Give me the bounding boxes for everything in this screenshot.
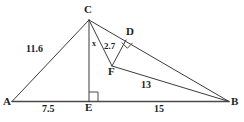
length-label-cf: x: [92, 40, 96, 48]
segment-fb: [112, 66, 229, 102]
length-label-df: 2.7: [104, 42, 115, 51]
segment-cb: [89, 20, 229, 102]
length-label-ac: 11.6: [26, 44, 43, 54]
length-label-eb: 15: [154, 104, 164, 114]
vertex-label-b: B: [231, 96, 238, 107]
vertex-label-c: C: [84, 4, 92, 15]
vertex-label-f: F: [108, 66, 115, 77]
diagram-canvas: [0, 0, 244, 122]
vertex-label-a: A: [3, 96, 11, 107]
geometry-diagram: C D F A E B 11.6 x 2.7 13 7.5 15: [0, 0, 244, 122]
length-label-fb: 13: [141, 80, 151, 90]
vertex-label-e: E: [85, 102, 92, 113]
length-label-ae: 7.5: [42, 104, 55, 114]
segment-ac: [12, 20, 89, 102]
vertex-label-d: D: [126, 26, 134, 37]
